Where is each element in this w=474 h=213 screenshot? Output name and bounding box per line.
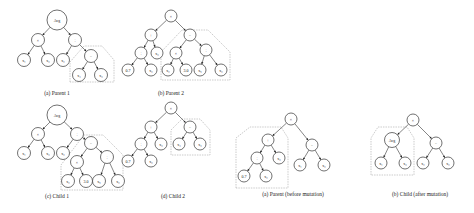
node-label: x₃ bbox=[46, 58, 50, 63]
tree-node: × bbox=[32, 128, 45, 141]
arrowhead-icon bbox=[28, 52, 30, 54]
node-label: x₂ bbox=[446, 161, 450, 166]
node-label: x₁ bbox=[379, 161, 383, 166]
tree-node: Avg bbox=[47, 105, 67, 125]
node-label: x₃ bbox=[155, 51, 159, 56]
node-label: x₂ bbox=[322, 163, 326, 168]
node-label: x₃ bbox=[277, 156, 281, 161]
tree-node: × bbox=[165, 10, 177, 22]
tree-node: x₂ bbox=[57, 147, 70, 160]
node-label: x₂ bbox=[116, 179, 120, 184]
node-label: × bbox=[170, 14, 172, 19]
tree-node: × bbox=[165, 102, 177, 114]
tree-node: ÷ bbox=[135, 47, 147, 59]
tree-node: x₃ bbox=[42, 147, 55, 160]
node-label: x₂ bbox=[264, 174, 268, 179]
tree-node: × bbox=[32, 34, 45, 47]
tree-node: × bbox=[71, 156, 84, 169]
tree-node: x₂ bbox=[145, 64, 157, 76]
panel-caption: (c) Child 1 bbox=[45, 193, 69, 200]
tree-edge bbox=[175, 112, 186, 123]
tree-edge bbox=[175, 20, 186, 31]
node-label: x₂ bbox=[166, 68, 170, 73]
tree-node: ÷ bbox=[71, 128, 84, 141]
panel-caption: (d) Child 2 bbox=[161, 193, 185, 200]
node-label: x₂ bbox=[149, 68, 153, 73]
node-label: x₅ bbox=[198, 68, 202, 73]
panel-caption: (a) Parent (before mutation) bbox=[262, 191, 324, 198]
tree-node: x₃ bbox=[42, 54, 55, 67]
tree-node: x₂ bbox=[260, 170, 272, 182]
node-label: × bbox=[175, 51, 177, 56]
tree-node: 0.7 bbox=[122, 64, 134, 76]
node-label: x₂ bbox=[61, 58, 65, 63]
subtree-regions bbox=[61, 30, 414, 190]
tree-node: × bbox=[407, 114, 419, 126]
tree-node: x₃ bbox=[194, 138, 206, 150]
tree-node: + bbox=[262, 134, 274, 146]
tree-node: − bbox=[85, 137, 98, 150]
panel-caption: (b) Parent 2 bbox=[158, 90, 184, 97]
tree-node: x₂ bbox=[112, 175, 125, 188]
tree-node: x₅ bbox=[194, 64, 206, 76]
tree-edge bbox=[397, 124, 408, 135]
tree-node: x₁ bbox=[294, 159, 306, 171]
tree-node: x₂ bbox=[215, 64, 227, 76]
tree-node: x₅ bbox=[93, 175, 106, 188]
tree-node: 3.0 bbox=[80, 175, 93, 188]
tree-node: − bbox=[184, 29, 196, 41]
tree-node: x₃ bbox=[273, 152, 285, 164]
tree-node: ÷ bbox=[101, 151, 114, 164]
tree-node: x₁ bbox=[18, 54, 31, 67]
node-label: 3.0 bbox=[84, 179, 89, 184]
panel-caption: (a) Parent 1 bbox=[44, 90, 70, 97]
tree-node: ÷ bbox=[200, 44, 212, 56]
node-label: x₁ bbox=[298, 163, 302, 168]
node-label: x₂ bbox=[61, 151, 65, 156]
gp-trees-diagram: Avg×÷x₁x₃x₂−x₄x₃×+−÷x₃×÷0.7x₂x₂3.0x₅x₂Av… bbox=[0, 0, 474, 213]
node-label: 0.7 bbox=[126, 68, 131, 73]
tree-node: x₂ bbox=[417, 157, 429, 169]
tree-node: 0.7 bbox=[238, 170, 250, 182]
tree-node: Avg bbox=[385, 133, 400, 148]
tree-node: x₂ bbox=[318, 159, 330, 171]
node-label: × bbox=[290, 117, 292, 122]
node-label: × bbox=[76, 160, 78, 165]
node-label: x₄ bbox=[77, 73, 81, 78]
tree-node: x₂ bbox=[57, 54, 70, 67]
tree-node: x₃ bbox=[95, 69, 108, 82]
node-label: × bbox=[37, 132, 39, 137]
tree-node: x₃ bbox=[399, 157, 411, 169]
tree-node: + bbox=[145, 121, 157, 133]
tree-node: ÷ bbox=[69, 34, 82, 47]
node-label: x₂ bbox=[149, 159, 153, 164]
tree-edge bbox=[272, 123, 286, 136]
node-label: Avg bbox=[54, 18, 61, 23]
tree-node: x₃ bbox=[155, 138, 167, 150]
tree-node: ÷ bbox=[251, 152, 263, 164]
node-label: x₂ bbox=[421, 161, 425, 166]
node-label: x₂ bbox=[66, 179, 70, 184]
node-label: Avg bbox=[54, 113, 61, 118]
tree-nodes: Avg×÷x₁x₃x₂−x₄x₃×+−÷x₃×÷0.7x₂x₂3.0x₅x₂Av… bbox=[18, 10, 455, 188]
tree-edge bbox=[155, 20, 166, 31]
tree-node: ÷ bbox=[135, 138, 147, 150]
node-label: x₃ bbox=[99, 73, 103, 78]
tree-node: × bbox=[285, 113, 297, 125]
node-label: × bbox=[170, 106, 172, 111]
tree-edge bbox=[295, 124, 308, 141]
tree-node: x₄ bbox=[73, 69, 86, 82]
tree-node: − bbox=[184, 121, 196, 133]
tree-edge bbox=[155, 112, 166, 123]
tree-node: × bbox=[170, 47, 182, 59]
tree-edges bbox=[28, 20, 445, 175]
tree-node: x₁ bbox=[18, 147, 31, 160]
tree-node: x₃ bbox=[151, 47, 163, 59]
tree-node: x₄ bbox=[173, 138, 185, 150]
tree-node: x₁ bbox=[375, 157, 387, 169]
tree-node: 0.7 bbox=[122, 155, 134, 167]
tree-node: x₂ bbox=[442, 157, 454, 169]
node-label: 0.7 bbox=[126, 159, 131, 164]
node-label: x₃ bbox=[198, 142, 202, 147]
tree-node: − bbox=[85, 50, 98, 63]
